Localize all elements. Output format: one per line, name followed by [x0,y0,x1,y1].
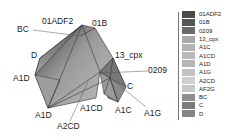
legend-swatch [182,11,195,18]
legend-item-01B: 01B [182,18,232,26]
legend-swatch [182,69,195,76]
label-C: C [127,82,133,91]
legend-swatch [182,94,195,101]
label-A1D-upper: A1D [13,74,30,83]
legend-swatch [182,44,195,51]
legend-item-AF2G: AF2G [182,85,232,93]
label-D: D [31,51,37,60]
label-BC: BC [17,25,29,34]
polyhedron-plot: 01ADF2 01B BC D A1D A1D A1CD A2CD 13_cpx… [0,0,175,140]
legend-swatch [182,102,195,109]
label-A2CD: A2CD [57,122,80,131]
legend-divider [178,12,179,120]
legend-item-A1CD: A1CD [182,51,232,59]
legend-item-A1C: A1C [182,43,232,51]
label-13-cpx: 13_cpx [115,51,142,60]
legend-swatch [182,52,195,59]
legend-swatch [182,85,195,92]
label-01ADF2: 01ADF2 [42,17,73,26]
label-A1D-lower: A1D [35,111,52,120]
legend-swatch [182,27,195,34]
legend-swatch [182,110,195,117]
legend-swatch [182,19,195,26]
legend-item-A1D: A1D [182,60,232,68]
label-0209: 0209 [148,66,167,75]
legend-item-C: C [182,101,232,109]
legend-swatch [182,77,195,84]
legend-swatch [182,60,195,67]
legend-item-13-cpx: 13_cpx [182,35,232,43]
legend-item-D: D [182,110,232,118]
legend-item-A2CD: A2CD [182,76,232,84]
label-A1C: A1C [115,106,132,115]
label-01B: 01B [92,19,107,28]
legend-item-A1G: A1G [182,68,232,76]
legend-swatch [182,36,195,43]
legend-item-BC: BC [182,93,232,101]
legend: 01ADF2 01B 0209 13_cpx A1C A1CD A1D A1G … [182,10,232,118]
label-A1G: A1G [144,109,161,118]
label-A1CD: A1CD [80,104,103,113]
legend-item-01ADF2: 01ADF2 [182,10,232,18]
legend-item-0209: 0209 [182,27,232,35]
